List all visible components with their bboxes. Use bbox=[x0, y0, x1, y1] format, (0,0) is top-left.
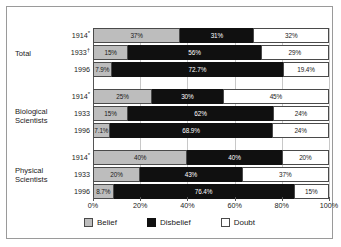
chart-frame: 37%31%32%15%56%29%7.9%72.7%19.4%25%30%45… bbox=[6, 6, 333, 239]
bar-segment-disbelief: 68.9% bbox=[110, 123, 273, 138]
bar-segment-belief: 8.7% bbox=[93, 184, 114, 199]
year-label-1914: 1914* bbox=[44, 153, 90, 162]
plot-area: 37%31%32%15%56%29%7.9%72.7%19.4%25%30%45… bbox=[93, 28, 329, 199]
year-label-1933: 1933 bbox=[44, 170, 90, 179]
tick-label-60: 60% bbox=[227, 201, 241, 210]
bar-segment-doubt: 15% bbox=[294, 184, 329, 199]
bar-segment-belief: 37% bbox=[93, 28, 180, 43]
bar-row: 40%40%20% bbox=[93, 150, 329, 165]
tick-label-80: 80% bbox=[275, 201, 289, 210]
bar-segment-disbelief: 31% bbox=[180, 28, 253, 43]
tick-label-40: 40% bbox=[180, 201, 194, 210]
year-label-1996: 1996 bbox=[44, 65, 90, 74]
bar-segment-belief: 40% bbox=[93, 150, 187, 165]
bar-segment-disbelief: 40% bbox=[187, 150, 281, 165]
year-label-1914: 1914* bbox=[44, 92, 90, 101]
group-label-physical-line2: Scientists bbox=[15, 175, 48, 184]
year-label-1933: 1933 bbox=[44, 109, 90, 118]
bar-segment-doubt: 45% bbox=[223, 89, 329, 104]
bar-segment-belief: 15% bbox=[93, 106, 128, 121]
gridline-100 bbox=[329, 28, 330, 199]
bar-segment-doubt: 24% bbox=[273, 106, 329, 121]
bar-segment-disbelief: 30% bbox=[152, 89, 223, 104]
bar-row: 7.1%68.9%24% bbox=[93, 123, 329, 138]
chart-legend: Belief Disbelief Doubt bbox=[6, 212, 333, 232]
legend-item-belief: Belief bbox=[84, 218, 117, 227]
year-label-1996: 1996 bbox=[44, 187, 90, 196]
tick-label-0: 0% bbox=[88, 201, 98, 210]
tick-label-100: 100% bbox=[320, 201, 338, 210]
bar-segment-belief: 7.1% bbox=[93, 123, 110, 138]
year-label-1996: 1996 bbox=[44, 126, 90, 135]
group-label-total-text: Total bbox=[15, 49, 31, 58]
bar-segment-disbelief: 43% bbox=[140, 167, 241, 182]
bar-row: 37%31%32% bbox=[93, 28, 329, 43]
legend-swatch-doubt bbox=[221, 218, 230, 227]
bar-segment-belief: 7.9% bbox=[93, 62, 112, 77]
year-label-1933: 1933† bbox=[44, 48, 90, 57]
legend-label-doubt: Doubt bbox=[234, 218, 255, 227]
bar-row: 15%56%29% bbox=[93, 45, 329, 60]
bar-segment-doubt: 20% bbox=[282, 150, 329, 165]
bar-segment-disbelief: 62% bbox=[128, 106, 273, 121]
bar-segment-disbelief: 72.7% bbox=[112, 62, 284, 77]
bar-segment-belief: 15% bbox=[93, 45, 128, 60]
bar-row: 7.9%72.7%19.4% bbox=[93, 62, 329, 77]
bar-segment-doubt: 19.4% bbox=[283, 62, 329, 77]
legend-swatch-disbelief bbox=[147, 218, 156, 227]
bar-row: 20%43%37% bbox=[93, 167, 329, 182]
legend-item-doubt: Doubt bbox=[221, 218, 255, 227]
legend-swatch-belief bbox=[84, 218, 93, 227]
bar-segment-belief: 20% bbox=[93, 167, 140, 182]
bar-segment-belief: 25% bbox=[93, 89, 152, 104]
bar-segment-doubt: 37% bbox=[242, 167, 329, 182]
bar-segment-doubt: 32% bbox=[253, 28, 329, 43]
group-label-biological-line2: Scientists bbox=[15, 116, 48, 125]
bar-row: 15%62%24% bbox=[93, 106, 329, 121]
tick-label-20: 20% bbox=[133, 201, 147, 210]
year-label-1914: 1914* bbox=[44, 31, 90, 40]
group-label-physical-line1: Physical bbox=[15, 166, 43, 175]
group-label-biological-line1: Biological bbox=[15, 107, 48, 116]
legend-item-disbelief: Disbelief bbox=[147, 218, 191, 227]
bar-row: 8.7%76.4%15% bbox=[93, 184, 329, 199]
legend-label-belief: Belief bbox=[97, 218, 117, 227]
legend-label-disbelief: Disbelief bbox=[160, 218, 191, 227]
bar-segment-doubt: 29% bbox=[261, 45, 329, 60]
bar-row: 25%30%45% bbox=[93, 89, 329, 104]
bar-segment-disbelief: 56% bbox=[128, 45, 260, 60]
bar-segment-doubt: 24% bbox=[272, 123, 329, 138]
